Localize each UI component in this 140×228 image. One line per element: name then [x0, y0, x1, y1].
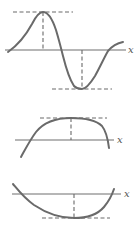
x-axis-label: x: [128, 44, 134, 55]
x-axis-label: x: [124, 188, 130, 199]
panel-concave-up-graph: x: [12, 184, 130, 218]
function-curve: [13, 184, 114, 218]
panel-concave-down-graph: x: [15, 118, 123, 157]
figure-canvas: x x x: [0, 0, 140, 228]
x-axis-label: x: [117, 134, 123, 145]
panel-sine-graph: x: [5, 12, 134, 89]
function-curve: [21, 118, 109, 157]
